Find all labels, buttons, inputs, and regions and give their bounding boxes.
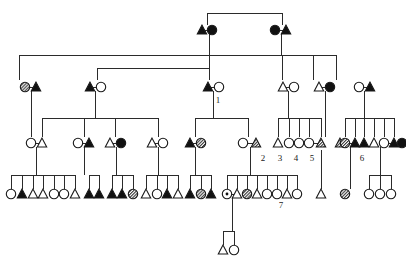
female-symbol (6, 189, 15, 198)
female-symbol (375, 189, 384, 198)
pedigree-symbol-circle-hatched[interactable] (196, 189, 205, 198)
female-symbol (325, 82, 334, 91)
pedigree-symbol-circle-hatched[interactable] (242, 189, 251, 198)
pedigree-symbol-circle-open[interactable] (289, 82, 298, 91)
pedigree-symbol-circle-open[interactable] (375, 189, 384, 198)
pedigree-symbol-triangle-solid[interactable] (17, 189, 26, 198)
pedigree-symbol-circle-hatched[interactable] (340, 138, 349, 147)
pedigree-symbol-triangle-solid[interactable] (206, 189, 215, 198)
male-symbol (117, 189, 126, 198)
pedigree-symbol-circle-hatched[interactable] (196, 138, 205, 147)
pedigree-symbol-circle-open[interactable] (284, 138, 293, 147)
pedigree-symbol-circle-open[interactable] (304, 138, 313, 147)
pedigree-symbol-triangle-open[interactable] (28, 189, 37, 198)
female-symbol (354, 82, 363, 91)
pedigree-symbol-triangle-open[interactable] (316, 189, 325, 198)
male-symbol (218, 245, 227, 254)
pedigree-symbol-triangle-open[interactable] (252, 189, 261, 198)
pedigree-symbol-triangle-open[interactable] (70, 189, 79, 198)
male-symbol (107, 189, 116, 198)
female-symbol (379, 138, 388, 147)
carrier-dot-icon (226, 193, 229, 196)
female-symbol (229, 245, 238, 254)
pedigree-symbol-circle-open[interactable] (152, 189, 161, 198)
pedigree-symbol-triangle-solid[interactable] (359, 138, 368, 147)
male-symbol (273, 138, 282, 147)
pedigree-symbol-circle-open[interactable] (364, 189, 373, 198)
pedigree-canvas: 1234567 (0, 0, 406, 264)
female-symbol (196, 189, 205, 198)
pedigree-symbol-triangle-solid[interactable] (117, 189, 126, 198)
female-symbol (49, 189, 58, 198)
pedigree-symbol-circle-solid[interactable] (116, 138, 125, 147)
pedigree-symbol-circle-solid[interactable] (397, 138, 406, 147)
female-symbol (397, 138, 406, 147)
pedigree-symbol-circle-open[interactable] (96, 82, 105, 91)
pedigree-symbol-circle-open[interactable] (379, 138, 388, 147)
symbol-layer (6, 25, 406, 255)
pedigree-symbol-circle-hatched[interactable] (20, 82, 29, 91)
pedigree-symbol-triangle-solid[interactable] (107, 189, 116, 198)
pedigree-symbol-circle-open[interactable] (214, 82, 223, 91)
pedigree-symbol-circle-open[interactable] (294, 138, 303, 147)
female-symbol (262, 189, 271, 198)
female-symbol (128, 189, 137, 198)
pedigree-symbol-circle-open[interactable] (272, 189, 281, 198)
pedigree-symbol-circle-solid[interactable] (325, 82, 334, 91)
pedigree-symbol-circle-solid[interactable] (207, 25, 216, 34)
pedigree-symbol-triangle-solid[interactable] (185, 189, 194, 198)
male-symbol (84, 189, 93, 198)
pedigree-symbol-triangle-open[interactable] (282, 189, 291, 198)
female-symbol (73, 138, 82, 147)
male-symbol (17, 189, 26, 198)
pedigree-symbol-circle-hatched[interactable] (128, 189, 137, 198)
female-symbol (292, 189, 301, 198)
pedigree-symbol-circle-open[interactable] (73, 138, 82, 147)
pedigree-symbol-triangle-open[interactable] (141, 189, 150, 198)
pedigree-symbol-circle-open[interactable] (49, 189, 58, 198)
individual-number-label: 4 (294, 153, 299, 163)
female-symbol (289, 82, 298, 91)
pedigree-symbol-circle-open[interactable] (6, 189, 15, 198)
male-symbol (28, 189, 37, 198)
individual-number-label: 7 (279, 200, 284, 210)
connector-layer (11, 13, 394, 245)
pedigree-symbol-circle-solid[interactable] (270, 25, 279, 34)
pedigree-symbol-triangle-open[interactable] (369, 138, 378, 147)
female-symbol (294, 138, 303, 147)
male-symbol (162, 189, 171, 198)
pedigree-symbol-triangle-open[interactable] (218, 245, 227, 254)
pedigree-symbol-circle-open[interactable] (354, 82, 363, 91)
pedigree-symbol-triangle-open[interactable] (173, 189, 182, 198)
female-symbol (207, 25, 216, 34)
male-symbol (206, 189, 215, 198)
pedigree-symbol-circle-open[interactable] (238, 138, 247, 147)
pedigree-symbol-triangle-solid[interactable] (94, 189, 103, 198)
female-symbol (284, 138, 293, 147)
pedigree-symbol-triangle-solid[interactable] (162, 189, 171, 198)
pedigree-chart: 1234567 (0, 0, 406, 264)
male-symbol (173, 189, 182, 198)
male-symbol (316, 189, 325, 198)
male-symbol (141, 189, 150, 198)
pedigree-symbol-triangle-open[interactable] (38, 189, 47, 198)
pedigree-symbol-circle-open[interactable] (26, 138, 35, 147)
pedigree-symbol-circle-hatched[interactable] (340, 189, 349, 198)
individual-number-label: 1 (216, 95, 221, 105)
pedigree-symbol-circle-open[interactable] (59, 189, 68, 198)
pedigree-symbol-circle-open[interactable] (158, 138, 167, 147)
female-symbol (59, 189, 68, 198)
pedigree-symbol-circle-open[interactable] (292, 189, 301, 198)
female-symbol (214, 82, 223, 91)
individual-number-label: 2 (261, 153, 266, 163)
pedigree-symbol-triangle-open[interactable] (273, 138, 282, 147)
individual-number-label: 3 (278, 153, 283, 163)
pedigree-symbol-circle-carrier[interactable] (222, 189, 231, 198)
pedigree-symbol-circle-open[interactable] (229, 245, 238, 254)
female-symbol (26, 138, 35, 147)
pedigree-symbol-triangle-solid[interactable] (84, 189, 93, 198)
pedigree-symbol-circle-open[interactable] (262, 189, 271, 198)
male-symbol (282, 189, 291, 198)
pedigree-symbol-circle-open[interactable] (386, 189, 395, 198)
female-symbol (158, 138, 167, 147)
